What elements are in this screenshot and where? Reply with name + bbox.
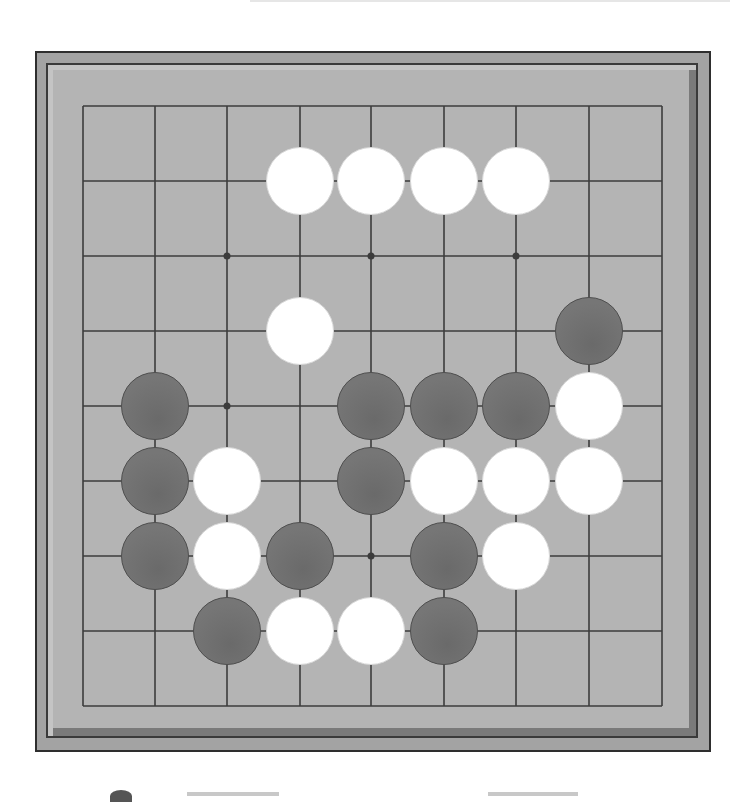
board-intersection-2-1[interactable] [197, 151, 257, 211]
board-intersection-3-0[interactable] [270, 76, 330, 136]
black-stone[interactable] [121, 372, 189, 440]
white-stone[interactable] [193, 447, 261, 515]
white-stone[interactable] [193, 522, 261, 590]
board-intersection-8-2[interactable] [632, 226, 692, 286]
board-intersection-4-2[interactable] [341, 226, 401, 286]
white-stone[interactable] [266, 297, 334, 365]
board-intersection-1-3[interactable] [125, 301, 185, 361]
board-intersection-1-8[interactable] [125, 676, 185, 736]
board-intersection-6-3[interactable] [486, 301, 546, 361]
board-intersection-8-6[interactable] [632, 526, 692, 586]
board-intersection-4-0[interactable] [341, 76, 401, 136]
black-stone[interactable] [482, 372, 550, 440]
board-intersection-8-7[interactable] [632, 601, 692, 661]
black-stone[interactable] [410, 597, 478, 665]
board-intersection-8-5[interactable] [632, 451, 692, 511]
board-intersection-6-7[interactable] [486, 601, 546, 661]
board-intersection-0-6[interactable] [53, 526, 113, 586]
board-intersection-0-0[interactable] [53, 76, 113, 136]
board-intersection-1-0[interactable] [125, 76, 185, 136]
black-stone[interactable] [266, 522, 334, 590]
bottom-bar-right [488, 792, 578, 796]
board-intersection-1-1[interactable] [125, 151, 185, 211]
board-intersection-0-7[interactable] [53, 601, 113, 661]
board-intersection-8-0[interactable] [632, 76, 692, 136]
board-intersection-5-8[interactable] [414, 676, 474, 736]
black-stone[interactable] [193, 597, 261, 665]
black-stone[interactable] [337, 372, 405, 440]
black-stone[interactable] [410, 522, 478, 590]
white-stone[interactable] [337, 147, 405, 215]
board-intersection-7-7[interactable] [559, 601, 619, 661]
black-stone[interactable] [410, 372, 478, 440]
board-intersection-0-3[interactable] [53, 301, 113, 361]
board-intersection-0-4[interactable] [53, 376, 113, 436]
board-intersection-0-2[interactable] [53, 226, 113, 286]
board-intersection-0-5[interactable] [53, 451, 113, 511]
board-intersection-3-4[interactable] [270, 376, 330, 436]
board-intersection-3-2[interactable] [270, 226, 330, 286]
board-intersection-5-3[interactable] [414, 301, 474, 361]
board-intersection-7-6[interactable] [559, 526, 619, 586]
board-intersection-8-3[interactable] [632, 301, 692, 361]
partial-stone-icon [110, 790, 132, 802]
board-intersection-6-2[interactable] [486, 226, 546, 286]
board-intersection-7-0[interactable] [559, 76, 619, 136]
board-intersection-4-6[interactable] [341, 526, 401, 586]
board-intersection-8-4[interactable] [632, 376, 692, 436]
board-intersection-2-8[interactable] [197, 676, 257, 736]
board-intersection-7-2[interactable] [559, 226, 619, 286]
board-intersection-2-0[interactable] [197, 76, 257, 136]
board-intersection-8-8[interactable] [632, 676, 692, 736]
board-intersection-1-7[interactable] [125, 601, 185, 661]
white-stone[interactable] [410, 147, 478, 215]
board-intersection-1-2[interactable] [125, 226, 185, 286]
board-intersection-3-5[interactable] [270, 451, 330, 511]
board-intersection-5-0[interactable] [414, 76, 474, 136]
board-intersection-2-2[interactable] [197, 226, 257, 286]
board-intersection-5-2[interactable] [414, 226, 474, 286]
black-stone[interactable] [555, 297, 623, 365]
white-stone[interactable] [482, 147, 550, 215]
board-intersection-2-3[interactable] [197, 301, 257, 361]
board-intersection-4-3[interactable] [341, 301, 401, 361]
board-intersection-4-8[interactable] [341, 676, 401, 736]
white-stone[interactable] [555, 447, 623, 515]
black-stone[interactable] [121, 522, 189, 590]
board-intersection-3-8[interactable] [270, 676, 330, 736]
white-stone[interactable] [482, 522, 550, 590]
board-intersection-0-8[interactable] [53, 676, 113, 736]
board-intersection-0-1[interactable] [53, 151, 113, 211]
white-stone[interactable] [337, 597, 405, 665]
board-intersection-8-1[interactable] [632, 151, 692, 211]
white-stone[interactable] [555, 372, 623, 440]
white-stone[interactable] [266, 147, 334, 215]
board-intersection-2-4[interactable] [197, 376, 257, 436]
board-intersection-7-8[interactable] [559, 676, 619, 736]
board-intersection-7-1[interactable] [559, 151, 619, 211]
black-stone[interactable] [337, 447, 405, 515]
bottom-bar-left [187, 792, 279, 796]
white-stone[interactable] [482, 447, 550, 515]
board-intersection-6-0[interactable] [486, 76, 546, 136]
board-intersection-6-8[interactable] [486, 676, 546, 736]
white-stone[interactable] [410, 447, 478, 515]
black-stone[interactable] [121, 447, 189, 515]
white-stone[interactable] [266, 597, 334, 665]
